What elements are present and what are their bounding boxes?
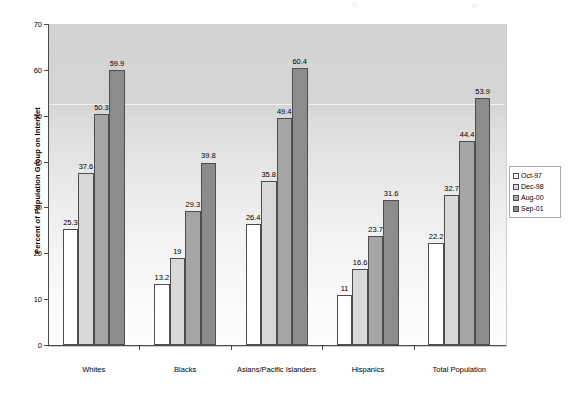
scan-artifact-1 [352,2,357,7]
bar [261,181,277,345]
bar-value-label: 44.4 [460,130,475,139]
legend-label: Sep-01 [521,205,544,212]
bar [475,98,491,345]
legend-swatch-icon [513,184,519,190]
bar-value-label: 19 [173,247,181,256]
bar [292,68,308,345]
bar-value-label: 23.7 [368,225,383,234]
bar-value-label: 31.6 [384,189,399,198]
bar-value-label: 39.8 [201,151,216,160]
bar-value-label: 22.2 [429,232,444,241]
y-tick-mark [44,345,48,346]
bar-value-label: 37.6 [79,162,94,171]
bar [352,269,368,345]
x-category-label: Asians/Pacific Islanders [237,365,316,374]
bar [185,211,201,345]
bar-value-label: 53.9 [475,87,490,96]
x-tick-mark [322,346,323,350]
bar [78,173,94,345]
scan-artifact-2 [472,3,477,8]
legend-item: Dec-98 [513,181,557,192]
bar [444,195,460,345]
legend-label: Aug-00 [521,194,544,201]
x-axis-line [48,345,506,346]
bar-value-label: 60.4 [292,57,307,66]
legend-label: Oct-97 [521,172,542,179]
bar-value-label: 35.8 [261,170,276,179]
bar [154,284,170,345]
y-tick-label: 30 [34,203,42,212]
x-category-label: Whites [82,365,105,374]
bar-value-label: 50.3 [94,103,109,112]
bar-value-label: 59.9 [110,59,125,68]
legend-item: Sep-01 [513,203,557,214]
bar-value-label: 16.6 [353,258,368,267]
legend-swatch-icon [513,173,519,179]
y-tick-label: 50 [34,111,42,120]
bar [170,258,186,345]
bar [63,229,79,345]
bar [337,295,353,345]
x-tick-mark [414,346,415,350]
bar [109,70,125,345]
legend-swatch-icon [513,206,519,212]
bar [383,200,399,345]
legend-swatch-icon [513,195,519,201]
bar [201,163,217,346]
y-tick-label: 40 [34,157,42,166]
bar [368,236,384,345]
bar [94,114,110,345]
bar-value-label: 25.3 [63,218,78,227]
x-tick-mark [139,346,140,350]
bar-chart: Percent of Population Group on Internet … [0,0,572,404]
x-category-label: Total Population [433,365,486,374]
legend-label: Dec-98 [521,183,544,190]
bars-layer: 25.337.650.359.913.21929.339.826.435.849… [48,24,505,345]
legend-item: Aug-00 [513,192,557,203]
y-tick-label: 60 [34,65,42,74]
bar-value-label: 32.7 [444,184,459,193]
bar-value-label: 11 [341,284,349,293]
bar-value-label: 13.2 [155,273,170,282]
x-tick-mark [231,346,232,350]
bar-value-label: 29.3 [186,200,201,209]
y-tick-label: 10 [34,295,42,304]
x-category-label: Hispanics [352,365,385,374]
y-tick-label: 20 [34,249,42,258]
bar-value-label: 49.4 [277,107,292,116]
bar [246,224,262,345]
bar [277,118,293,345]
x-category-label: Blacks [174,365,196,374]
bar [459,141,475,345]
bar-value-label: 26.4 [246,213,261,222]
bar [428,243,444,345]
chart-legend: Oct-97Dec-98Aug-00Sep-01 [509,166,561,218]
y-axis-ticks: 010203040506070 [0,0,48,404]
legend-item: Oct-97 [513,170,557,181]
y-tick-label: 70 [34,20,42,29]
y-tick-label: 0 [38,341,42,350]
